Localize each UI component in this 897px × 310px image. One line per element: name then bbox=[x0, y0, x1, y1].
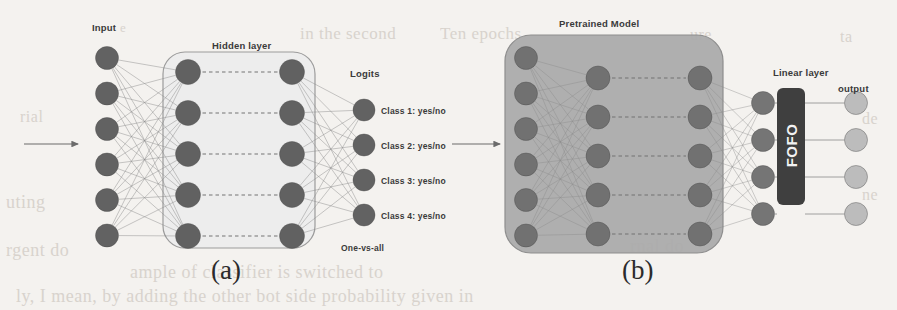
panel-b-fofo-label: FOFO bbox=[783, 118, 800, 174]
panel-a-input-node bbox=[96, 82, 119, 105]
panel-b-linear-node bbox=[752, 166, 775, 189]
panel-b-linear-layer-label: Linear layer bbox=[773, 67, 829, 78]
panel-b-mid-node bbox=[586, 66, 610, 90]
panel-b-input-node bbox=[515, 224, 538, 247]
panel-b-pretrained-model-label: Pretrained Model bbox=[559, 18, 639, 29]
panel-a-logits-label: Logits bbox=[350, 68, 380, 79]
panel-a-hidden-left-node bbox=[176, 183, 201, 208]
panel-b-linear-node bbox=[752, 203, 775, 226]
panel-a-hidden-left-node bbox=[176, 142, 201, 167]
panel-b-mid-node bbox=[586, 222, 610, 246]
panel-b-caption: (b) bbox=[622, 255, 653, 286]
panel-a-class-2-label: Class 2: yes/no bbox=[381, 141, 446, 151]
panel-b-output-node bbox=[845, 92, 868, 115]
panel-b-output-node bbox=[845, 203, 868, 226]
panel-b-input-node bbox=[515, 82, 538, 105]
panel-b-right-node bbox=[688, 183, 712, 207]
panel-a-input-node bbox=[96, 47, 119, 70]
panel-b-input-node bbox=[515, 47, 538, 70]
panel-a-input-node bbox=[96, 189, 119, 212]
panel-a-hidden-right-node bbox=[280, 60, 305, 85]
panel-a-hidden-right-node bbox=[280, 224, 305, 249]
panel-a-hidden-layer-label: Hidden layer bbox=[212, 40, 271, 51]
panel-a-class-1-label: Class 1: yes/no bbox=[381, 106, 446, 116]
panel-b-input-node bbox=[515, 118, 538, 141]
panel-a-logit-node bbox=[353, 204, 375, 226]
panel-b-linear-node bbox=[752, 129, 775, 152]
panel-b-output-node bbox=[845, 129, 868, 152]
panel-a-logit-node bbox=[353, 99, 375, 121]
panel-b-output-node bbox=[845, 166, 868, 189]
panel-a-input-node bbox=[96, 118, 119, 141]
panel-b-output-label: output bbox=[838, 83, 869, 94]
network-diagram-svg bbox=[0, 0, 897, 310]
panel-b-mid-node bbox=[586, 144, 610, 168]
panel-a-class-3-label: Class 3: yes/no bbox=[381, 176, 446, 186]
panel-b-right-node bbox=[688, 222, 712, 246]
panel-a-logit-node bbox=[353, 169, 375, 191]
panel-a-caption: (a) bbox=[211, 255, 241, 286]
panel-a-hidden-left-node bbox=[176, 101, 201, 126]
panel-a-hidden-left-node bbox=[176, 60, 201, 85]
panel-b-right-node bbox=[688, 105, 712, 129]
panel-b-mid-node bbox=[586, 105, 610, 129]
panel-a-input-label: Input bbox=[92, 22, 116, 33]
panel-a-hidden-right-node bbox=[280, 142, 305, 167]
panel-b-input-node bbox=[515, 153, 538, 176]
panel-a-hidden-left-node bbox=[176, 224, 201, 249]
panel-b-mid-node bbox=[586, 183, 610, 207]
panel-b-right-node bbox=[688, 144, 712, 168]
panel-a-hidden-right-node bbox=[280, 101, 305, 126]
panel-a-input-node bbox=[96, 224, 119, 247]
figure-container: in the secondTen epochseuretarialdeuting… bbox=[0, 0, 897, 310]
panel-b-right-node bbox=[688, 66, 712, 90]
panel-a-logit-node bbox=[353, 134, 375, 156]
panel-b-linear-node bbox=[752, 92, 775, 115]
panel-a-one-vs-all-label: One-vs-all bbox=[341, 243, 384, 253]
panel-a-hidden-right-node bbox=[280, 183, 305, 208]
panel-a-class-4-label: Class 4: yes/no bbox=[381, 211, 446, 221]
panel-a-input-node bbox=[96, 153, 119, 176]
panel-b-input-node bbox=[515, 189, 538, 212]
